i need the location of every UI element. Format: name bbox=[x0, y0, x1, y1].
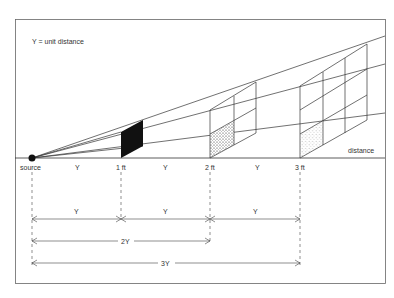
area-2ft bbox=[210, 82, 256, 158]
marker-2ft: 2 ft bbox=[205, 164, 215, 171]
dim-label-y3: Y bbox=[253, 208, 258, 215]
marker-1ft: 1 ft bbox=[116, 164, 126, 171]
dim-label-y1: Y bbox=[74, 208, 79, 215]
legend: Y = unit distance bbox=[32, 38, 84, 45]
segment-label-1: Y bbox=[75, 164, 80, 171]
legend-text: Y = unit distance bbox=[32, 38, 84, 45]
diagram-frame bbox=[16, 20, 386, 284]
distance-label: distance bbox=[348, 147, 374, 154]
source-label: source bbox=[20, 164, 41, 171]
area-1ft bbox=[121, 120, 143, 158]
marker-3ft: 3 ft bbox=[295, 164, 305, 171]
dim-label-3y: 3Y bbox=[161, 260, 170, 267]
dim-label-2y: 2Y bbox=[121, 238, 130, 245]
dimension-lines bbox=[32, 216, 300, 266]
segment-label-2: Y bbox=[163, 164, 168, 171]
segment-label-3: Y bbox=[255, 164, 260, 171]
source-point bbox=[29, 155, 36, 162]
dim-label-y2: Y bbox=[163, 208, 168, 215]
inverse-square-diagram: Y = unit distance distance source bbox=[0, 0, 394, 298]
area-3ft bbox=[300, 44, 367, 158]
